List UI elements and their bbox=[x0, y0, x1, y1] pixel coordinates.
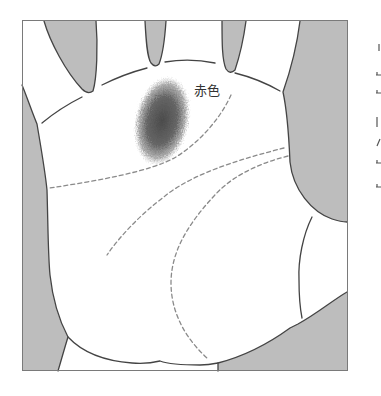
annotation-label: 赤色 bbox=[194, 83, 220, 98]
palm-diagram: 赤色 bbox=[0, 0, 381, 396]
